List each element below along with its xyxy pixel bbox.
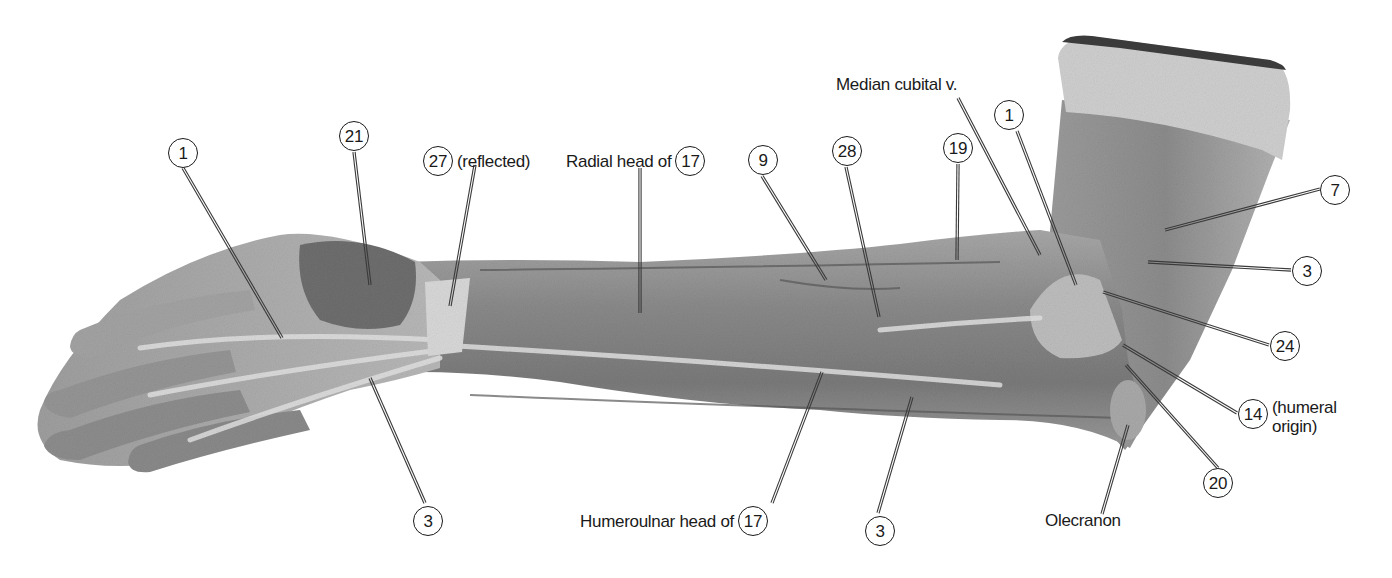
figure-label-l3b: 3 bbox=[413, 506, 443, 536]
figure-label-l1b: 1 bbox=[994, 100, 1024, 130]
circled-number-callout: 27 bbox=[423, 146, 453, 176]
label-text: Radial head of bbox=[566, 153, 671, 170]
circled-number-callout: 19 bbox=[943, 133, 973, 163]
circled-number-callout: 17 bbox=[738, 506, 768, 536]
label-text: Olecranon bbox=[1045, 512, 1121, 529]
figure-label-l7: 7 bbox=[1320, 175, 1350, 205]
figure-label-l1a: 1 bbox=[168, 138, 198, 168]
label-annotation: (humeral origin) bbox=[1272, 399, 1337, 436]
figure-label-l27: 27(reflected) bbox=[423, 146, 530, 176]
figure-label-l3a: 3 bbox=[1292, 256, 1322, 286]
circled-number-callout: 9 bbox=[748, 145, 778, 175]
forearm-dissection-image bbox=[0, 0, 1392, 578]
label-text: Median cubital v. bbox=[836, 76, 957, 93]
circled-number-callout: 7 bbox=[1320, 175, 1350, 205]
circled-number-callout: 20 bbox=[1203, 468, 1233, 498]
label-annotation: (reflected) bbox=[457, 153, 530, 170]
circled-number-callout: 21 bbox=[339, 121, 369, 151]
circled-number-callout: 3 bbox=[865, 516, 895, 546]
circled-number-callout: 1 bbox=[168, 138, 198, 168]
leader-line bbox=[371, 378, 426, 503]
olecranon bbox=[1110, 380, 1146, 440]
leader-line bbox=[369, 378, 424, 503]
figure-label-l3c: 3 bbox=[865, 516, 895, 546]
figure-label-lole: Olecranon bbox=[1045, 512, 1121, 529]
figure-label-l9: 9 bbox=[748, 145, 778, 175]
circled-number-callout: 17 bbox=[675, 146, 705, 176]
figure-label-l20: 20 bbox=[1203, 468, 1233, 498]
circled-number-callout: 1 bbox=[994, 100, 1024, 130]
figure-label-l21: 21 bbox=[339, 121, 369, 151]
circled-number-callout: 24 bbox=[1270, 331, 1300, 361]
figure-label-lmcv: Median cubital v. bbox=[836, 76, 957, 93]
circled-number-callout: 28 bbox=[832, 136, 862, 166]
figure-label-l19: 19 bbox=[943, 133, 973, 163]
circled-number-callout: 14 bbox=[1238, 399, 1268, 429]
label-text: Humeroulnar head of bbox=[580, 513, 734, 530]
circled-number-callout: 3 bbox=[413, 506, 443, 536]
arm-tissue bbox=[38, 36, 1291, 473]
figure-label-l14: 14(humeral origin) bbox=[1238, 399, 1337, 436]
figure-label-l28: 28 bbox=[832, 136, 862, 166]
figure-label-l17r: Radial head of17 bbox=[566, 146, 705, 176]
figure-label-l17h: Humeroulnar head of17 bbox=[580, 506, 768, 536]
circled-number-callout: 3 bbox=[1292, 256, 1322, 286]
figure-label-l24: 24 bbox=[1270, 331, 1300, 361]
